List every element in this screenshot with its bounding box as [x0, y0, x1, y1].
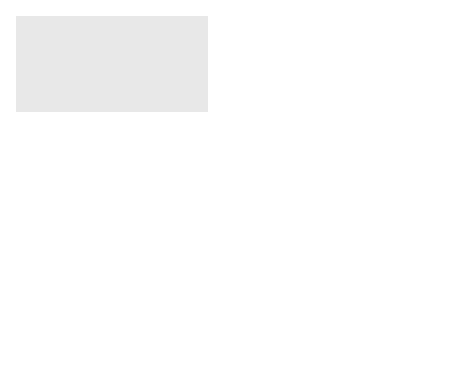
endocytosis-diagram	[0, 0, 450, 385]
